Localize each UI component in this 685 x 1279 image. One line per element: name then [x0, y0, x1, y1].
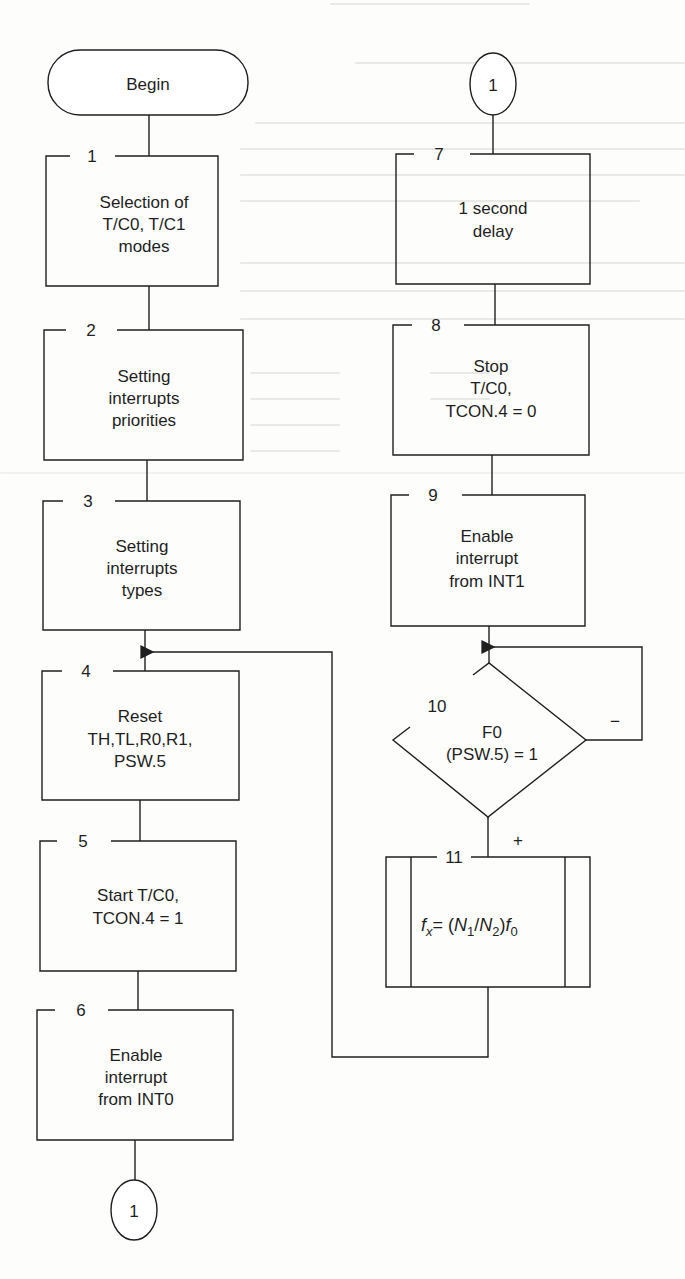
step-text-5: Start T/C0, TCON.4 = 1 — [92, 886, 183, 928]
step-number-1: 1 — [87, 147, 96, 166]
svg-text:Enable: Enable — [461, 527, 514, 546]
svg-text:TCON.4 = 0: TCON.4 = 0 — [445, 402, 536, 421]
decision-no-label: − — [610, 712, 620, 731]
step-number-10: 10 — [428, 697, 447, 716]
svg-text:modes: modes — [118, 237, 169, 256]
svg-text:T/C0, T/C1: T/C0, T/C1 — [103, 215, 186, 234]
svg-text:types: types — [122, 581, 163, 600]
decision-text-10: F0 (PSW.5) = 1 — [446, 723, 538, 764]
step-text-3: Setting interrupts types — [107, 537, 178, 600]
svg-text:interrupt: interrupt — [456, 549, 519, 568]
step-text-7: 1 second delay — [459, 199, 528, 241]
step-box-5 — [40, 841, 236, 971]
svg-text:from INT1: from INT1 — [449, 572, 525, 591]
step-number-5: 5 — [78, 832, 87, 851]
decision-yes-label: + — [513, 831, 523, 850]
svg-text:from INT0: from INT0 — [98, 1090, 174, 1109]
step-text-2: Setting interrupts priorities — [109, 367, 180, 430]
begin-label: Begin — [126, 75, 169, 94]
svg-text:priorities: priorities — [112, 411, 176, 430]
svg-text:T/C0,: T/C0, — [470, 379, 512, 398]
flowchart: Begin 1 1 1 2 3 4 5 6 7 8 9 10 11 Select… — [0, 0, 685, 1279]
step-number-9: 9 — [428, 486, 437, 505]
step-number-11: 11 — [445, 848, 463, 867]
step-number-3: 3 — [83, 492, 92, 511]
step-number-6: 6 — [76, 1001, 85, 1020]
svg-text:F0: F0 — [482, 723, 502, 742]
step-box-7 — [396, 154, 590, 284]
svg-text:Setting: Setting — [118, 367, 171, 386]
svg-text:delay: delay — [473, 222, 514, 241]
svg-text:Start T/C0,: Start T/C0, — [97, 886, 179, 905]
step-text-6: Enable interrupt from INT0 — [98, 1046, 174, 1109]
step-text-1: Selection of T/C0, T/C1 modes — [100, 193, 189, 256]
svg-text:(PSW.5) = 1: (PSW.5) = 1 — [446, 745, 538, 764]
step-text-8: Stop T/C0, TCON.4 = 0 — [445, 357, 536, 421]
step-text-9: Enable interrupt from INT1 — [449, 527, 525, 591]
connector-top-label: 1 — [488, 76, 497, 95]
svg-text:TH,TL,R0,R1,: TH,TL,R0,R1, — [88, 730, 193, 749]
step-text-4: Reset TH,TL,R0,R1, PSW.5 — [88, 707, 193, 771]
svg-text:PSW.5: PSW.5 — [114, 752, 166, 771]
svg-text:interrupts: interrupts — [107, 559, 178, 578]
svg-text:Selection of: Selection of — [100, 193, 189, 212]
connector-bottom-label: 1 — [129, 1202, 138, 1221]
step-number-4: 4 — [81, 662, 90, 681]
subroutine-formula: fx= (N1/N2)f0 — [421, 915, 518, 939]
step-number-7: 7 — [434, 145, 443, 164]
svg-text:interrupt: interrupt — [105, 1068, 168, 1087]
step-number-2: 2 — [86, 321, 95, 340]
svg-text:Stop: Stop — [474, 357, 509, 376]
step-number-8: 8 — [431, 316, 440, 335]
svg-text:1 second: 1 second — [459, 199, 528, 218]
svg-text:Enable: Enable — [110, 1046, 163, 1065]
svg-text:TCON.4 = 1: TCON.4 = 1 — [92, 909, 183, 928]
svg-text:Setting: Setting — [116, 537, 169, 556]
svg-text:interrupts: interrupts — [109, 389, 180, 408]
svg-text:Reset: Reset — [118, 707, 163, 726]
